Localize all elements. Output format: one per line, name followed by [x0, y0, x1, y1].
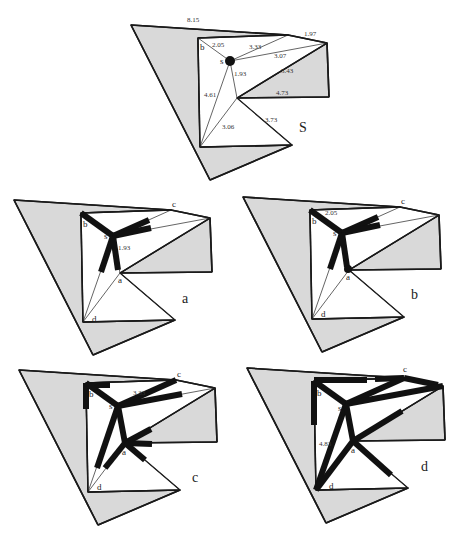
node-label-s: s [333, 228, 337, 238]
node-label-a: a [346, 272, 350, 282]
node-label-b: b [89, 389, 94, 399]
panel-caption-s: S [299, 120, 307, 135]
edge-label-s-a: 1.93 [234, 70, 247, 78]
node-label-c: c [172, 199, 176, 209]
source-node-s [225, 56, 235, 66]
node-label-c: c [401, 196, 405, 206]
node-label-a: a [118, 275, 122, 285]
node-label-d: d [97, 482, 102, 492]
edge-label-a-r: 5.43 [281, 67, 294, 75]
panel-a: 1.93 b c s a d a [14, 199, 212, 355]
visibility-graph-figure: 8.15 1.97 2.05 3.33 3.07 5.43 4.73 1.93 … [0, 0, 457, 539]
node-label-a: a [122, 447, 126, 457]
edge-label: 3.33 [133, 389, 146, 397]
edge-label-a-box: 4.73 [276, 89, 289, 97]
edge-label-s-b: 2.05 [212, 41, 225, 49]
node-label-c: c [177, 369, 181, 379]
edge-label-s-c: 3.33 [249, 43, 262, 51]
edge-label-a-d: 3.06 [222, 123, 235, 131]
node-label-b: b [200, 42, 205, 52]
node-label-c: c [403, 364, 407, 374]
node-label-b: b [312, 216, 317, 226]
panel-caption-a: a [182, 291, 189, 306]
node-label-s: s [104, 231, 108, 241]
panel-c: 3.33 b c s a d c [19, 369, 217, 525]
node-label-s: s [220, 56, 224, 66]
node-label-a: a [351, 445, 355, 455]
panel-d: 4.83 b c s a d d [247, 364, 445, 523]
edge-label-outer: 8.15 [187, 16, 200, 24]
edge-label: 2.05 [325, 209, 338, 217]
node-label-d: d [321, 309, 326, 319]
node-label-s: s [109, 401, 113, 411]
panel-s: 8.15 1.97 2.05 3.33 3.07 5.43 4.73 1.93 … [131, 16, 329, 180]
edge-label-s-r: 3.07 [274, 52, 287, 60]
edge-label-s-d: 4.61 [204, 91, 217, 99]
panel-caption-c: c [192, 470, 198, 485]
panel-b: 2.05 b c s a d b [243, 196, 441, 352]
node-label-b: b [83, 219, 88, 229]
edge-label: 1.93 [118, 244, 131, 252]
node-label-d: d [329, 481, 334, 491]
edge-label: 4.83 [319, 440, 332, 448]
edge-label-a-e: 3.73 [265, 116, 278, 124]
panel-caption-d: d [421, 459, 428, 474]
node-label-b: b [317, 388, 322, 398]
node-label-d: d [92, 314, 97, 324]
panel-caption-b: b [411, 287, 418, 302]
node-label-s: s [338, 403, 342, 413]
edge-label-top-right: 1.97 [304, 30, 317, 38]
